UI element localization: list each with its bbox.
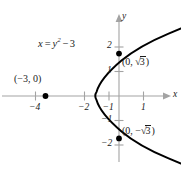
equation-minus: − — [63, 38, 69, 49]
y-tick-label-2: 2 — [107, 41, 112, 51]
point-label-upper-intercept: (0, √3) — [122, 56, 149, 68]
equation-lhs: x — [38, 38, 43, 49]
equation-label: x=y2−3 — [38, 37, 75, 49]
y-tick-label-1: 1 — [107, 66, 112, 76]
equation-equals: = — [45, 38, 51, 49]
lower-label-suffix: ) — [151, 125, 154, 136]
point-dot-vertex — [43, 93, 49, 99]
point-label-lower-intercept: (0, −√3) — [122, 125, 155, 137]
plot-canvas — [0, 0, 181, 169]
y-axis-name: y — [122, 12, 126, 22]
equation-exponent: 2 — [57, 36, 61, 44]
lower-label-prefix: (0, − — [122, 125, 141, 136]
parabola-figure: x y −4 −2 −1 1 2 1 −1 −2 x=y2−3 (−3, 0) … — [0, 0, 181, 169]
x-axis-name: x — [173, 90, 177, 100]
y-tick-label--1: −1 — [101, 115, 112, 125]
y-tick-label--2: −2 — [101, 139, 112, 149]
x-axis — [2, 92, 171, 101]
upper-label-suffix: ) — [146, 56, 149, 67]
point-label-vertex: (−3, 0) — [14, 74, 41, 84]
x-tick-label-1: 1 — [141, 103, 146, 113]
equation-constant: 3 — [70, 38, 75, 49]
x-tick-label--4: −4 — [29, 103, 40, 113]
x-tick-label--1: −1 — [103, 103, 114, 113]
upper-label-prefix: (0, — [122, 56, 135, 67]
x-tick-label--2: −2 — [78, 103, 89, 113]
